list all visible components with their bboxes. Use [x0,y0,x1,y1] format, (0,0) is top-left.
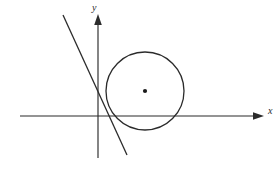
x-axis-label: x [268,106,272,116]
circle-center-dot [143,89,147,93]
x-axis-arrow-icon [253,112,264,120]
figure-canvas [0,0,280,170]
y-axis-arrow-icon [94,14,102,25]
tangent-line-shape [63,15,127,155]
geometry-figure: y x [0,0,280,170]
y-axis-label: y [92,3,96,13]
x-axis-group [20,112,264,120]
